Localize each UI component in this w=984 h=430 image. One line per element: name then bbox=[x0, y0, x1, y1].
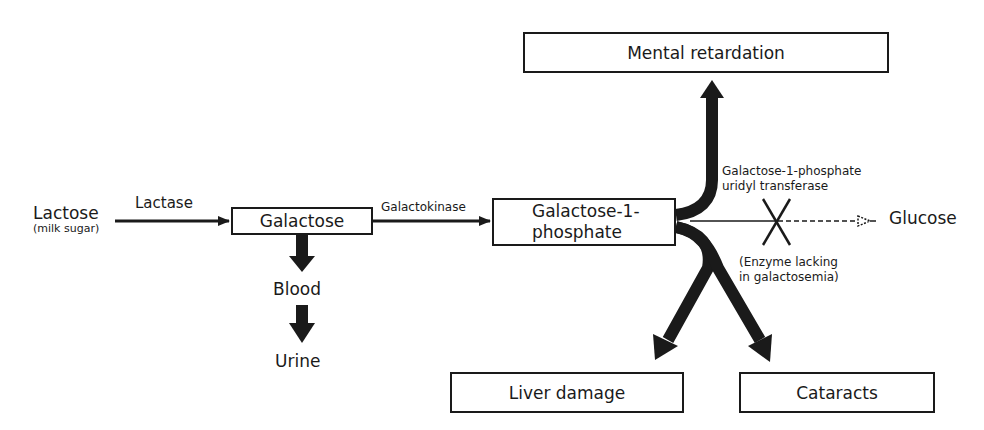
galactokinase-enzyme-label: Galactokinase bbox=[381, 200, 466, 214]
enzyme-lacking-line2: in galactosemia) bbox=[739, 270, 839, 285]
blood-to-urine-arrow bbox=[289, 305, 315, 343]
galactose-1-phosphate-box: Galactose-1- phosphate bbox=[492, 198, 676, 246]
enzyme-lacking-line1: (Enzyme lacking bbox=[739, 255, 839, 270]
mental-retardation-label: Mental retardation bbox=[627, 43, 785, 63]
galactose-1-phosphate-label-line2: phosphate bbox=[532, 222, 622, 243]
urine-label: Urine bbox=[275, 351, 320, 371]
lactose-sublabel: (milk sugar) bbox=[33, 222, 99, 235]
enzyme-lacking-annotation: (Enzyme lacking in galactosemia) bbox=[739, 255, 839, 285]
galactosemia-pathway-diagram: Lactose (milk sugar) Lactase Galactose G… bbox=[0, 0, 984, 430]
transferase-label-line2: uridyl transferase bbox=[722, 179, 861, 194]
galactose-box: Galactose bbox=[231, 207, 373, 235]
transferase-label-line1: Galactose-1-phosphate bbox=[722, 164, 861, 179]
lactose-label: Lactose bbox=[33, 203, 99, 223]
liver-damage-label: Liver damage bbox=[509, 383, 626, 403]
blood-label: Blood bbox=[273, 279, 321, 299]
blocked-x-icon bbox=[763, 199, 790, 245]
galactose-1-phosphate-label-line1: Galactose-1- bbox=[532, 201, 640, 222]
cataracts-box: Cataracts bbox=[739, 372, 935, 413]
cataracts-label: Cataracts bbox=[796, 383, 878, 403]
dashed-arrowhead-icon bbox=[858, 216, 870, 226]
mental-retardation-box: Mental retardation bbox=[523, 32, 889, 73]
transferase-enzyme-label: Galactose-1-phosphate uridyl transferase bbox=[722, 164, 861, 194]
liver-damage-box: Liver damage bbox=[450, 372, 684, 413]
galactose-label: Galactose bbox=[260, 211, 344, 231]
glucose-label: Glucose bbox=[889, 208, 957, 228]
galactose-to-blood-arrow bbox=[289, 235, 315, 272]
to-mental-retardation-arrow bbox=[676, 80, 724, 215]
lactase-enzyme-label: Lactase bbox=[135, 194, 193, 212]
